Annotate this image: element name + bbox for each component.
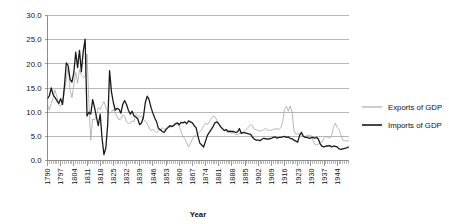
x-tick-label: 1860 bbox=[175, 169, 184, 185]
axis-ticks bbox=[45, 16, 349, 166]
x-tick-label: 1916 bbox=[280, 169, 289, 185]
x-tick-label: 1853 bbox=[162, 169, 171, 185]
x-tick-label: 1797 bbox=[56, 169, 65, 185]
series-line-imports bbox=[48, 39, 349, 155]
x-tick-label: 1881 bbox=[214, 169, 223, 185]
chart-legend: Exports of GDPImports of GDP bbox=[362, 103, 442, 130]
data-series bbox=[48, 39, 349, 155]
x-tick-label: 1930 bbox=[307, 169, 316, 185]
x-tick-label: 1895 bbox=[241, 169, 250, 185]
x-axis-tick-labels: 1790179718041811181818251832183918461853… bbox=[43, 169, 342, 185]
x-tick-label: 1825 bbox=[109, 169, 118, 185]
y-tick-label: 5.0 bbox=[31, 132, 43, 141]
chart-container: 0.05.010.015.020.025.030.0 1790179718041… bbox=[0, 0, 449, 224]
x-tick-label: 1790 bbox=[43, 169, 52, 185]
y-tick-label: 25.0 bbox=[26, 35, 42, 44]
x-tick-label: 1832 bbox=[122, 169, 131, 185]
x-tick-label: 1839 bbox=[135, 169, 144, 185]
x-tick-label: 1818 bbox=[96, 169, 105, 185]
y-axis-tick-labels: 0.05.010.015.020.025.030.0 bbox=[26, 11, 42, 165]
x-tick-label: 1923 bbox=[294, 169, 303, 185]
x-tick-label: 1867 bbox=[188, 169, 197, 185]
x-axis-title: Year bbox=[190, 210, 206, 219]
y-tick-label: 0.0 bbox=[31, 156, 43, 165]
x-tick-label: 1874 bbox=[201, 169, 210, 185]
legend-label-imports: Imports of GDP bbox=[388, 121, 442, 130]
x-tick-label: 1846 bbox=[149, 169, 158, 185]
x-tick-label: 1937 bbox=[320, 169, 329, 185]
x-tick-label: 1888 bbox=[228, 169, 237, 185]
y-tick-label: 20.0 bbox=[26, 60, 42, 69]
x-tick-label: 1902 bbox=[254, 169, 263, 185]
gridlines bbox=[48, 16, 349, 137]
exports-imports-gdp-line-chart: 0.05.010.015.020.025.030.0 1790179718041… bbox=[0, 0, 449, 224]
legend-label-exports: Exports of GDP bbox=[388, 103, 442, 112]
x-tick-label: 1811 bbox=[83, 169, 92, 185]
x-tick-label: 1909 bbox=[267, 169, 276, 185]
y-tick-label: 30.0 bbox=[26, 11, 42, 20]
y-tick-label: 10.0 bbox=[26, 108, 42, 117]
x-tick-label: 1804 bbox=[70, 169, 79, 185]
y-tick-label: 15.0 bbox=[26, 84, 42, 93]
x-tick-label: 1944 bbox=[333, 169, 342, 185]
